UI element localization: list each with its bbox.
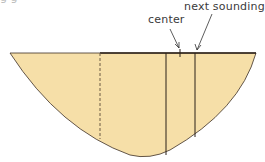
channel-fill <box>10 53 256 157</box>
cross-section-diagram <box>0 0 265 162</box>
next-sounding-arrow <box>197 14 212 50</box>
center-label: center <box>148 13 185 26</box>
center-arrow <box>170 29 179 48</box>
next-sounding-label: next sounding <box>184 0 265 13</box>
